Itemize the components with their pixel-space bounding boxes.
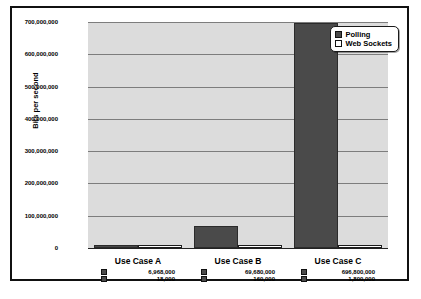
- value-swatch-polling: [301, 269, 307, 275]
- bar-websockets[interactable]: [338, 245, 382, 248]
- value-text: 696,800,000: [310, 269, 375, 275]
- value-text: 6,968,000: [110, 269, 175, 275]
- chart-frame: Bits per second 0100,000,000200,000,0003…: [10, 6, 409, 281]
- value-text: 160,000: [210, 276, 275, 282]
- value-row: 696,800,000: [301, 269, 375, 275]
- y-tick-label-700000000: 700,000,000: [0, 19, 58, 25]
- value-swatch-polling: [201, 269, 207, 275]
- legend-label: Web Sockets: [345, 40, 392, 48]
- y-tick-label-200000000: 200,000,000: [0, 180, 58, 186]
- y-tick-label-100000000: 100,000,000: [0, 213, 58, 219]
- y-tick-label-500000000: 500,000,000: [0, 84, 58, 90]
- legend-label: Polling: [345, 31, 370, 39]
- value-row: 69,680,000: [201, 269, 275, 275]
- legend-item[interactable]: Web Sockets: [335, 40, 392, 48]
- y-tick-label-0: 0: [0, 245, 58, 251]
- y-axis-title: Bits per second: [31, 46, 40, 156]
- value-text: 18,000: [110, 276, 175, 282]
- legend-swatch-websockets: [335, 40, 342, 47]
- value-swatch-polling: [101, 269, 107, 275]
- category-cell: Use Case B69,680,000160,000: [188, 256, 288, 296]
- chart-legend: PollingWeb Sockets: [330, 26, 399, 52]
- legend-item[interactable]: Polling: [335, 31, 392, 39]
- value-swatch-websockets: [201, 276, 207, 282]
- y-tick-label-300000000: 300,000,000: [0, 148, 58, 154]
- value-text: 69,680,000: [210, 269, 275, 275]
- category-label: Use Case B: [215, 256, 262, 266]
- value-swatch-websockets: [101, 276, 107, 282]
- bar-group: [88, 22, 188, 248]
- bar-polling[interactable]: [94, 245, 138, 248]
- category-label: Use Case C: [315, 256, 362, 266]
- y-tick-label-600000000: 600,000,000: [0, 51, 58, 57]
- category-cell: Use Case C696,800,0001,800,000: [288, 256, 388, 296]
- category-cell: Use Case A6,968,00018,000: [88, 256, 188, 296]
- bar-group: [288, 22, 388, 248]
- bar-polling[interactable]: [194, 226, 238, 248]
- bar-websockets[interactable]: [138, 245, 182, 248]
- value-row: 1,800,000: [301, 276, 375, 282]
- bar-polling[interactable]: [294, 23, 338, 248]
- category-label: Use Case A: [115, 256, 161, 266]
- gridline-0: [88, 248, 388, 249]
- value-row: 160,000: [201, 276, 275, 282]
- legend-swatch-polling: [335, 31, 342, 38]
- category-value-table: Use Case A6,968,00018,000Use Case B69,68…: [88, 256, 388, 296]
- bar-group: [188, 22, 288, 248]
- plot-inner: [88, 22, 388, 248]
- value-row: 18,000: [101, 276, 175, 282]
- value-row: 6,968,000: [101, 269, 175, 275]
- y-tick-label-400000000: 400,000,000: [0, 116, 58, 122]
- plot-area: [88, 22, 388, 248]
- value-swatch-websockets: [301, 276, 307, 282]
- value-text: 1,800,000: [310, 276, 375, 282]
- bar-websockets[interactable]: [238, 245, 282, 248]
